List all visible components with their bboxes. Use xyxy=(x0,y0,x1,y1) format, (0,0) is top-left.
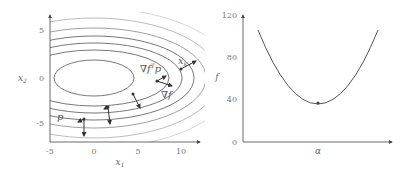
direction-arrow xyxy=(157,76,166,81)
gradient-arrow xyxy=(133,94,140,108)
contour-level-3 xyxy=(6,43,182,113)
y-tick-label: 120 xyxy=(222,11,237,20)
gradient-arrow xyxy=(108,107,110,124)
contour-level-1 xyxy=(54,60,134,96)
gradient-arrow xyxy=(157,81,172,86)
annotation-p: p xyxy=(57,111,64,122)
y-tick-label: 0 xyxy=(232,138,237,147)
y-axis-label: f xyxy=(214,72,220,82)
annotation-xk: xk xyxy=(178,55,188,67)
x-tick-label: -5 xyxy=(46,147,54,156)
descent-vectors xyxy=(78,61,196,136)
minimum-point xyxy=(316,101,319,104)
x-tick-label: 5 xyxy=(135,147,140,156)
x-tick-label: 10 xyxy=(176,147,186,156)
objective-curve xyxy=(258,30,378,104)
annotation-grad-f-transpose-p: ∇fTp xyxy=(140,62,162,74)
contour-plot: -5 0 5 10 5 0 -5 x1 x2 xyxy=(0,8,234,168)
y-tick-label: 40 xyxy=(227,95,237,104)
figure: -5 0 5 10 5 0 -5 x1 x2 xyxy=(0,0,415,169)
y-tick-label: 0 xyxy=(39,74,44,83)
y-axis-label: x2 xyxy=(18,73,27,84)
y-tick-label: 5 xyxy=(39,26,44,35)
x-axis-label: x1 xyxy=(116,157,125,168)
contour-lines xyxy=(0,8,234,148)
x-axis-label: α xyxy=(315,146,321,156)
x-tick-label: 0 xyxy=(91,147,96,156)
y-tick-label: 80 xyxy=(227,53,237,62)
contour-level-4 xyxy=(0,36,194,120)
line-search-plot: 120 80 40 0 α f xyxy=(214,11,392,156)
y-tick-label: -5 xyxy=(36,119,44,128)
